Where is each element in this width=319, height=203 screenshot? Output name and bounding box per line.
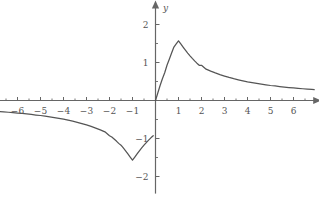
axes-group bbox=[0, 0, 319, 193]
plot-figure: −6−5−4−3−2−1123456−2−112xy bbox=[0, 0, 319, 203]
x-tick-label-3: 3 bbox=[222, 106, 228, 116]
x-tick-label--5: −5 bbox=[34, 106, 48, 116]
y-tick-label--1: −1 bbox=[135, 134, 148, 144]
y-axis-name: y bbox=[162, 3, 169, 13]
y-tick-label-2: 2 bbox=[143, 20, 149, 30]
x-tick-label-5: 5 bbox=[268, 106, 274, 116]
x-tick-label--4: −4 bbox=[57, 106, 71, 116]
function-curve-branch-1 bbox=[0, 112, 153, 161]
x-tick-label--2: −2 bbox=[103, 106, 116, 116]
y-axis-arrow bbox=[152, 0, 159, 8]
x-tick-label-4: 4 bbox=[245, 106, 251, 116]
x-tick-label-1: 1 bbox=[176, 106, 182, 116]
x-tick-label-2: 2 bbox=[199, 106, 205, 116]
tick-labels-group: −6−5−4−3−2−1123456−2−112xy bbox=[11, 3, 319, 182]
x-axis-arrow bbox=[313, 97, 319, 104]
x-tick-label--1: −1 bbox=[126, 106, 139, 116]
function-curve-branch-2 bbox=[156, 41, 315, 101]
x-tick-label--6: −6 bbox=[11, 106, 25, 116]
y-tick-label--2: −2 bbox=[135, 172, 148, 182]
plot-canvas: −6−5−4−3−2−1123456−2−112xy bbox=[0, 0, 319, 203]
x-tick-label-6: 6 bbox=[291, 106, 297, 116]
x-tick-label--3: −3 bbox=[80, 106, 94, 116]
y-tick-label-1: 1 bbox=[143, 58, 149, 68]
